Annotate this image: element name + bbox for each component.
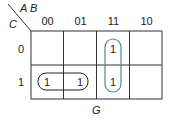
row-variable-label: C — [9, 18, 17, 30]
cell-r1-c00: 1 — [42, 76, 52, 88]
row-label-1: 1 — [18, 76, 24, 88]
column-label-01: 01 — [64, 15, 97, 27]
row-label-0: 0 — [18, 43, 24, 55]
cell-r1-c11: 1 — [108, 76, 118, 88]
cell-r0-c11: 1 — [108, 43, 118, 55]
column-variables-label: A B — [20, 2, 37, 14]
cell-r1-c01: 1 — [75, 76, 85, 88]
column-label-10: 10 — [130, 15, 163, 27]
column-label-00: 00 — [31, 15, 64, 27]
map-caption: G — [92, 104, 101, 116]
column-label-11: 11 — [97, 15, 130, 27]
